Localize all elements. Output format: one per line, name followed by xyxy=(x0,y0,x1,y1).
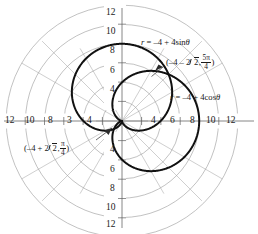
x-tick-label-neg4: 4 xyxy=(87,116,92,126)
x-tick-label-neg8: 8 xyxy=(48,116,53,126)
x-tick-label-6: 6 xyxy=(170,116,175,126)
x-tick-label-10: 10 xyxy=(206,116,216,126)
polar-plot-figure: r = –4 + 4sinθ r = –4 + 4cosθ (–4 – 22,5… xyxy=(0,0,258,234)
y-tick-label-12: 12 xyxy=(106,8,116,18)
polar-plot-canvas xyxy=(0,0,258,234)
equation-sine-body: = –4 + 4sin xyxy=(144,37,185,47)
point-upper-fraction: 5π4 xyxy=(201,54,210,70)
point-lower-open: (–4 + 2 xyxy=(24,143,49,153)
equation-label-cosine: r = –4 + 4cosθ xyxy=(170,93,220,102)
y-tick-label-6: 6 xyxy=(110,66,115,76)
point-upper-close: ) xyxy=(211,57,214,67)
point-lower-radicand: 2 xyxy=(52,143,57,153)
point-lower-close: ) xyxy=(66,143,69,153)
point-label-upper: (–4 – 22,5π4) xyxy=(166,54,214,70)
x-tick-label-4: 4 xyxy=(151,116,156,126)
equation-sine-theta: θ xyxy=(186,37,190,47)
point-lower-denominator: 4 xyxy=(60,148,66,157)
y-tick-label-neg12: 12 xyxy=(106,220,116,230)
y-tick-label-neg6: 6 xyxy=(110,165,115,175)
y-tick-label-neg4: 4 xyxy=(110,145,115,155)
point-upper-numerator: 5π xyxy=(201,54,210,62)
y-tick-label-10: 10 xyxy=(106,27,116,37)
sqrt-icon-lower: 2 xyxy=(49,143,57,153)
sqrt-icon-upper: 2 xyxy=(190,57,198,67)
point-lower-numerator: π xyxy=(60,140,66,148)
x-tick-label-neg12: 12 xyxy=(5,116,15,126)
x-tick-label-neg10: 10 xyxy=(25,116,35,126)
x-tick-label-neg6: 3 xyxy=(67,116,72,126)
point-upper-radicand: 2 xyxy=(194,57,199,67)
x-tick-label-8: 8 xyxy=(190,116,195,126)
y-tick-label-neg8: 8 xyxy=(110,184,115,194)
point-label-lower: (–4 + 22,π4) xyxy=(24,140,69,156)
y-tick-label-8: 8 xyxy=(110,46,115,56)
point-lower-fraction: π4 xyxy=(60,140,66,156)
equation-cosine-theta: θ xyxy=(216,92,220,102)
y-tick-label-4: 4 xyxy=(110,85,115,95)
equation-label-sine: r = –4 + 4sinθ xyxy=(141,38,190,47)
point-upper-denominator: 4 xyxy=(201,62,210,71)
x-tick-label-12: 12 xyxy=(226,116,236,126)
y-tick-label-neg10: 10 xyxy=(106,203,116,213)
equation-cosine-body: = –4 + 4cos xyxy=(173,92,216,102)
point-upper-open: (–4 – 2 xyxy=(166,57,190,67)
